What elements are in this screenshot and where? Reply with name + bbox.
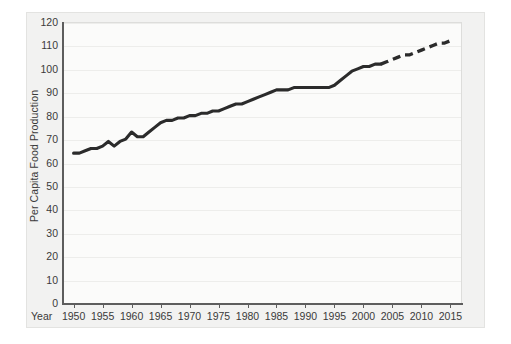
y-axis-line [62,22,64,304]
x-tick-1950 [74,303,75,308]
x-tick-2005 [392,303,393,308]
y-tick-label: 110 [32,40,58,51]
y-axis-title: Per Capita Food Production [28,56,40,256]
x-tick-1970 [190,303,191,308]
x-axis-line [62,303,463,305]
chart-figure: 0102030405060708090100110120 19501955196… [0,0,511,344]
x-tick-1975 [219,303,220,308]
y-tick-label: 10 [32,275,58,286]
x-tick-1965 [161,303,162,308]
gridline-y-30 [62,234,461,235]
x-tick-2000 [363,303,364,308]
gridline-y-20 [62,257,461,258]
gridline-y-120 [62,23,461,24]
gridline-y-100 [62,70,461,71]
x-axis-title: Year [31,311,52,322]
y-tick-label: 0 [32,298,58,309]
gridline-y-60 [62,164,461,165]
x-tick-1960 [132,303,133,308]
x-tick-2010 [421,303,422,308]
gridline-y-50 [62,187,461,188]
x-tick-2015 [450,303,451,308]
gridline-y-40 [62,210,461,211]
gridline-y-70 [62,140,461,141]
x-tick-1985 [276,303,277,308]
gridline-y-10 [62,281,461,282]
x-tick-label: 2015 [430,311,470,322]
x-tick-1980 [248,303,249,308]
x-tick-1955 [103,303,104,308]
gridline-y-80 [62,117,461,118]
x-tick-1995 [334,303,335,308]
gridline-y-90 [62,93,461,94]
plot-area [62,22,462,303]
gridline-y-110 [62,46,461,47]
x-tick-1990 [305,303,306,308]
y-tick-label: 120 [32,17,58,28]
